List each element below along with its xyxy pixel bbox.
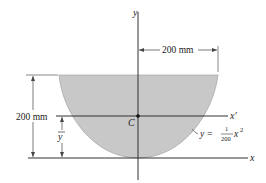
parabolic-area-diagram: y x x' C 200 mm 200 mm y y = 1 200 x 2 bbox=[0, 0, 266, 183]
x-prime-axis-label: x' bbox=[229, 110, 237, 121]
height-dimension-label: 200 mm bbox=[16, 112, 48, 122]
equation-lhs: y = bbox=[199, 129, 213, 139]
curve-equation: y = 1 200 x 2 bbox=[199, 125, 243, 142]
centroid-point bbox=[136, 114, 140, 118]
arrowhead-top-right bbox=[212, 48, 217, 52]
equation-variable: x bbox=[233, 129, 239, 139]
arrowhead-ybar-top bbox=[60, 117, 64, 122]
arrowhead-height-top bbox=[31, 76, 35, 81]
half-width-dimension-label: 200 mm bbox=[162, 45, 194, 55]
x-axis-label: x bbox=[249, 152, 255, 163]
arrowhead-top-left bbox=[139, 48, 144, 52]
ybar-symbol: y bbox=[57, 131, 63, 142]
centroid-label: C bbox=[128, 117, 135, 128]
equation-numerator: 1 bbox=[225, 125, 228, 132]
equation-denominator: 200 bbox=[221, 135, 231, 142]
arrowhead-ybar-bottom bbox=[60, 152, 64, 157]
arrowhead-height-bottom bbox=[31, 152, 35, 157]
y-axis-label: y bbox=[132, 7, 138, 18]
equation-exponent: 2 bbox=[240, 126, 243, 133]
ybar-label: y bbox=[57, 131, 65, 142]
